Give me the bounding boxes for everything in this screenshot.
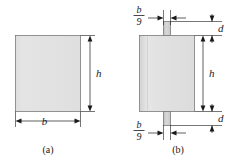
panel-b-group: b 9 b 9 [134, 4, 225, 156]
panel-a-caption: (a) [42, 144, 53, 156]
panel-a-width-arrow-left [16, 119, 22, 124]
panel-b-bottom-tab-width-denominator: 9 [137, 131, 142, 142]
panel-a-group: h b (a) [16, 36, 103, 157]
panel-b-top-d-arrow-upper [210, 16, 215, 22]
panel-b-height-label: h [209, 67, 215, 79]
figure-container: h b (a) b 9 [0, 0, 238, 166]
panel-b-bottom-tab-arrow-left [158, 131, 164, 136]
panel-a-width-label: b [42, 115, 48, 127]
panel-b-bottom-d-arrow-upper [210, 106, 215, 112]
panel-a-height-label: h [96, 67, 102, 79]
panel-a-width-arrow-right [75, 119, 81, 124]
panel-b-top-tab-arrow-left [158, 16, 164, 21]
panel-b-top-tab-arrow-right [171, 16, 177, 21]
panel-a-rectangle [16, 36, 81, 112]
panel-a-height-arrow-bottom [88, 106, 93, 112]
panel-b-height-arrow-bottom [201, 106, 206, 112]
engineering-figure-svg: h b (a) b 9 [0, 0, 238, 166]
panel-b-caption: (b) [172, 144, 184, 156]
panel-b-bottom-tab-arrow-right [171, 131, 177, 136]
panel-b-top-tab-width-numerator: b [137, 4, 142, 15]
panel-b-height-arrow-top [201, 36, 206, 42]
panel-b-top-gap-label: d [218, 22, 224, 34]
panel-b-top-d-arrow-lower [210, 36, 215, 42]
panel-b-bottom-d-arrow-lower [210, 126, 215, 132]
panel-b-bottom-gap-label: d [218, 112, 224, 124]
panel-b-bottom-tab [164, 112, 171, 126]
panel-b-top-tab-width-denominator: 9 [137, 16, 142, 27]
panel-b-top-tab [164, 22, 171, 36]
panel-b-bottom-tab-width-numerator: b [137, 119, 142, 130]
panel-a-height-arrow-top [88, 36, 93, 42]
